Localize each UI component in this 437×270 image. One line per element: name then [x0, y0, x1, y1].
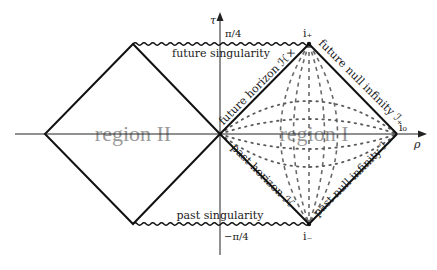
future-singularity-line [133, 43, 309, 46]
tau-axis-label: τ [210, 14, 217, 27]
penrose-diagram: region II region I τ ρ [0, 0, 437, 270]
i-minus-point [307, 222, 311, 226]
i-plus-point [307, 42, 311, 46]
rho-arrow-icon [418, 131, 427, 138]
past-singularity-label: past singularity [176, 209, 264, 222]
past-singularity-line [133, 223, 309, 226]
tau-arrow-icon [217, 12, 224, 21]
tau-bottom-tick-label: −π/4 [224, 231, 249, 242]
past-horizon-label: past horizon ℋ₋ [228, 141, 301, 214]
i-minus-label: i₋ [303, 230, 313, 243]
i-plus-label: i₊ [303, 27, 313, 40]
future-singularity-label: future singularity [172, 47, 271, 60]
future-null-infinity-label: future null infinity ℐ₊ [316, 37, 407, 128]
tau-top-tick-label: π/4 [225, 28, 241, 39]
rho-axis-label: ρ [413, 138, 421, 151]
